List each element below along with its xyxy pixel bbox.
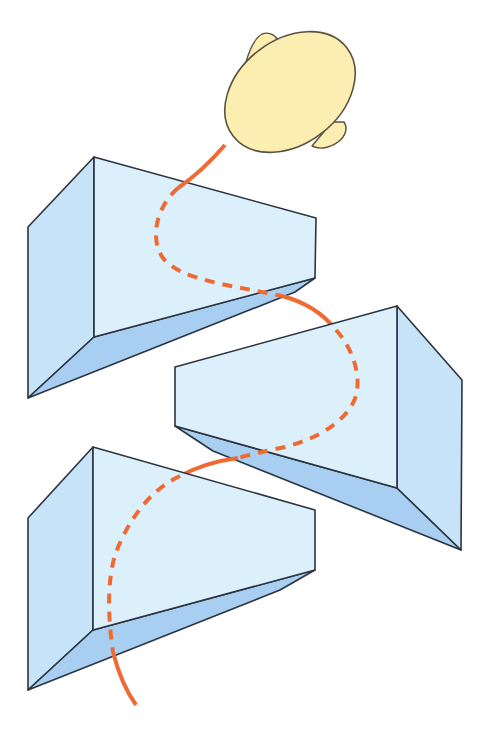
- bottom-block: [28, 447, 315, 690]
- head: [201, 7, 379, 178]
- diagram-svg: [0, 0, 487, 730]
- diagram-canvas: [0, 0, 487, 730]
- head-ellipse: [201, 7, 379, 178]
